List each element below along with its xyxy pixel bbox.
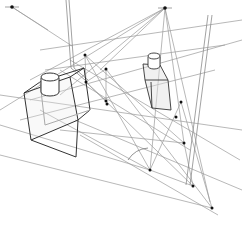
- right-cylinder: [148, 53, 160, 69]
- point-marker: [149, 169, 152, 172]
- point-marker: [183, 142, 186, 145]
- construction-line: [86, 82, 106, 101]
- point-marker: [106, 103, 109, 106]
- point-marker: [105, 68, 108, 71]
- perspective-diagram: [0, 0, 242, 226]
- guide-line: [190, 15, 212, 185]
- point-marker: [180, 101, 183, 104]
- construction-line: [181, 102, 212, 208]
- point-marker: [85, 81, 88, 84]
- vp-left: [10, 5, 14, 9]
- point-marker: [84, 54, 87, 57]
- angle-arc: [128, 148, 148, 160]
- construction-line: [12, 7, 48, 30]
- point-marker: [211, 207, 214, 210]
- point-marker: [192, 185, 195, 188]
- left-cylinder: [41, 73, 59, 96]
- guide-line: [66, 0, 71, 68]
- vanishing-points: [5, 5, 172, 10]
- construction-line: [40, 20, 242, 50]
- point-marker: [175, 116, 178, 119]
- vp-top-right: [163, 6, 167, 10]
- point-marker: [105, 100, 108, 103]
- guide-line: [186, 15, 208, 185]
- construction-line: [165, 8, 184, 143]
- right-box: [143, 64, 171, 110]
